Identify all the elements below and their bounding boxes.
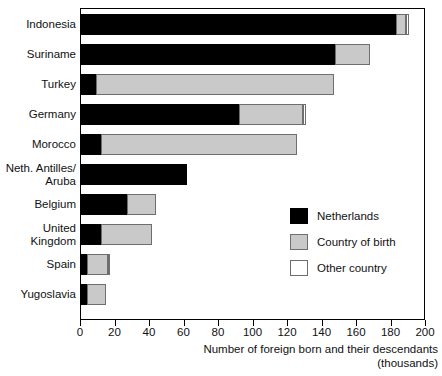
- legend-label: Other country: [317, 260, 387, 276]
- x-axis-tick-label: 60: [177, 326, 190, 338]
- x-axis-tick-label: 0: [77, 326, 83, 338]
- x-axis-tick-label: 180: [381, 326, 400, 338]
- bar-chart: IndonesiaSurinameTurkeyGermanyMoroccoNet…: [0, 0, 442, 376]
- category-label: United Kingdom: [31, 222, 76, 247]
- x-axis-tick-label: 100: [243, 326, 262, 338]
- bar-segment: [108, 254, 110, 275]
- category-label: Morocco: [32, 138, 76, 151]
- bar-segment: [80, 44, 335, 65]
- x-axis-tick-label: 20: [108, 326, 121, 338]
- x-axis-tick-label: 120: [277, 326, 296, 338]
- x-axis-tick-label: 80: [212, 326, 225, 338]
- x-axis-tick-label: 200: [415, 326, 434, 338]
- x-axis-title: Number of foreign born and their descend…: [160, 342, 438, 370]
- bar-segment: [335, 44, 370, 65]
- bar-segment: [80, 254, 87, 275]
- bar-segment: [80, 74, 96, 95]
- bar-segment: [80, 14, 396, 35]
- category-label: Germany: [29, 108, 76, 121]
- x-axis-title-line1: Number of foreign born and their descend…: [203, 343, 438, 355]
- bar-segment: [96, 74, 334, 95]
- legend-swatch-birth: [290, 234, 308, 250]
- bar-segment: [303, 104, 306, 125]
- legend-label: Country of birth: [317, 234, 396, 250]
- bar-segment: [87, 284, 106, 305]
- category-label: Neth. Antilles/ Aruba: [6, 162, 76, 187]
- x-axis-title-units: (thousands): [160, 356, 438, 370]
- legend-swatch-other: [290, 260, 308, 276]
- bar-segment: [239, 104, 303, 125]
- x-axis-tick-label: 40: [143, 326, 156, 338]
- bar-segment: [80, 134, 101, 155]
- bar-segment: [101, 224, 153, 245]
- category-label: Belgium: [34, 198, 76, 211]
- bar-segment: [406, 14, 409, 35]
- bar-segment: [80, 224, 101, 245]
- bar-segment: [80, 284, 87, 305]
- category-label: Turkey: [41, 78, 76, 91]
- bar-segment: [80, 104, 239, 125]
- bar-segment: [127, 194, 156, 215]
- bar-segment: [80, 194, 127, 215]
- legend-swatch-netherlands: [290, 208, 308, 224]
- bar-segment: [101, 134, 298, 155]
- bar-segment: [396, 14, 406, 35]
- category-label: Yugoslavia: [20, 288, 76, 301]
- x-axis-tick-label: 140: [312, 326, 331, 338]
- category-label: Suriname: [27, 48, 76, 61]
- legend-label: Netherlands: [317, 208, 379, 224]
- category-label: Spain: [47, 258, 76, 271]
- bar-segment: [87, 254, 108, 275]
- category-label: Indonesia: [26, 18, 76, 31]
- bar-segment: [80, 164, 187, 185]
- x-axis-tick-label: 160: [346, 326, 365, 338]
